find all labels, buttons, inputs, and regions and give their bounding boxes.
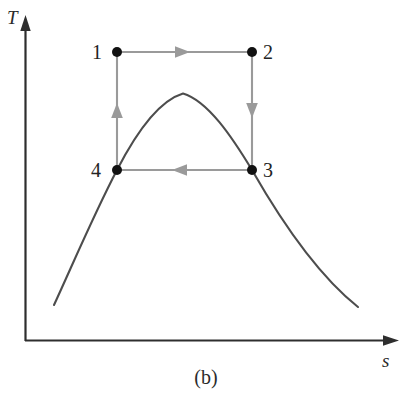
state-point-label-3: 3 [263,160,273,180]
state-point-label-4: 4 [91,160,101,180]
state-point-3-marker [247,165,257,175]
ts-diagram-canvas [0,0,408,395]
vapor-dome-curve [54,94,358,308]
y-axis-arrowhead [20,15,30,31]
process-4-1-arrowhead [111,103,123,118]
x-axis-label: s [382,351,389,370]
state-point-2-marker [247,47,257,57]
figure-caption: (b) [176,367,236,387]
process-1-2-arrowhead [175,46,190,58]
ts-diagram-figure: T s 1 2 3 4 (b) [0,0,408,395]
state-point-label-2: 2 [263,42,273,62]
process-2-3-arrowhead [246,103,258,118]
process-3-4-arrowhead [172,164,187,176]
state-point-label-1: 1 [92,42,102,62]
axes-group [20,15,399,346]
state-points-group [112,47,257,175]
vapor-dome-group [54,94,358,308]
x-axis-arrowhead [383,335,399,345]
state-point-1-marker [112,47,122,57]
y-axis-label: T [7,8,18,27]
state-point-4-marker [112,165,122,175]
carnot-cycle-group [111,46,258,176]
